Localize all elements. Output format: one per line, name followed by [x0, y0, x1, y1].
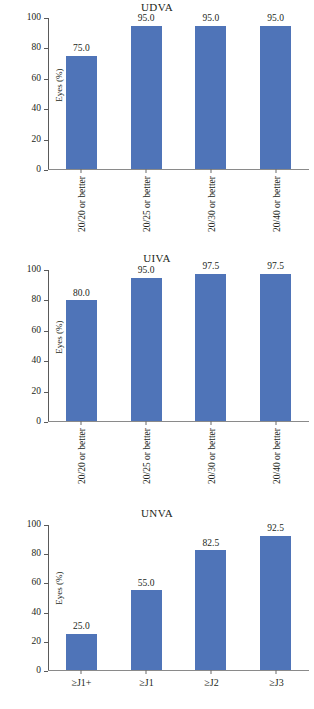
y-tick-100: [44, 18, 48, 19]
x-category-label: ≥J1: [139, 677, 153, 688]
x-category-label: 20/20 or better: [77, 428, 87, 484]
bar-group-uiva: 80.0 95.0 97.5: [49, 270, 308, 421]
bar-slot: 95.0: [243, 18, 308, 169]
x-tick: [275, 169, 276, 173]
x-tick: [81, 169, 82, 173]
x-category-label: 20/30 or better: [207, 176, 217, 232]
y-tick-label: 40: [32, 104, 42, 114]
x-axis-line-unva: [48, 670, 309, 671]
bar-value-label: 82.5: [203, 539, 220, 549]
chart-title-unva: UNVA: [0, 507, 314, 519]
bar[interactable]: 95.0: [131, 278, 162, 421]
y-tick-label: 40: [32, 356, 42, 366]
y-tick-label: 60: [32, 579, 42, 589]
x-axis-line-uiva: [48, 421, 309, 422]
bar[interactable]: 92.5: [260, 536, 291, 670]
bar-slot: 95.0: [114, 18, 179, 169]
y-tick-100: [44, 270, 48, 271]
y-tick-60: [44, 79, 48, 80]
bar-slot: 75.0: [49, 18, 114, 169]
x-tick: [275, 421, 276, 425]
bar-value-label: 95.0: [267, 14, 284, 24]
bar-value-label: 97.5: [267, 262, 284, 272]
y-tick-label: 0: [36, 417, 41, 427]
bar-value-label: 95.0: [138, 266, 155, 276]
y-tick-0: [44, 422, 48, 423]
bar-slot: 92.5: [243, 525, 308, 670]
y-tick-label: 0: [36, 165, 41, 175]
x-category-label: 20/40 or better: [272, 176, 282, 232]
bar[interactable]: 25.0: [66, 634, 97, 670]
bar[interactable]: 55.0: [131, 590, 162, 670]
bar[interactable]: 75.0: [66, 56, 97, 169]
bar[interactable]: 97.5: [260, 274, 291, 421]
y-tick-60: [44, 331, 48, 332]
y-tick-80: [44, 554, 48, 555]
y-tick-label: 100: [27, 13, 41, 23]
figure-three-bar-charts: UDVA Eyes (%) 100 80 60 40 20 0 75.0: [0, 0, 314, 709]
x-category-label: ≥J2: [204, 677, 218, 688]
x-tick: [210, 670, 211, 674]
bar-slot: 97.5: [179, 270, 244, 421]
x-category-label: 20/25 or better: [142, 176, 152, 232]
chart-panel-udva: UDVA Eyes (%) 100 80 60 40 20 0 75.0: [0, 0, 314, 248]
y-tick-40: [44, 361, 48, 362]
bar[interactable]: 95.0: [131, 26, 162, 169]
chart-panel-unva: UNVA Eyes (%) 100 80 60 40 20 0 25.0: [0, 503, 314, 709]
bar-value-label: 97.5: [203, 262, 220, 272]
bar-slot: 55.0: [114, 525, 179, 670]
y-tick-label: 60: [32, 74, 42, 84]
y-tick-label: 0: [36, 666, 41, 676]
y-tick-0: [44, 671, 48, 672]
y-tick-label: 60: [32, 326, 42, 336]
plot-area-udva: Eyes (%) 100 80 60 40 20 0 75.0: [48, 18, 308, 170]
bar-slot: 25.0: [49, 525, 114, 670]
bar-slot: 82.5: [179, 525, 244, 670]
bar-slot: 95.0: [179, 18, 244, 169]
y-tick-label: 80: [32, 296, 42, 306]
x-tick: [210, 169, 211, 173]
y-tick-0: [44, 170, 48, 171]
y-tick-label: 20: [32, 637, 42, 647]
x-category-label: 20/30 or better: [207, 428, 217, 484]
x-category-label: 20/20 or better: [77, 176, 87, 232]
bar[interactable]: 95.0: [195, 26, 226, 169]
bar[interactable]: 82.5: [195, 550, 226, 670]
bar-value-label: 25.0: [73, 622, 90, 632]
y-tick-label: 20: [32, 387, 42, 397]
bar-value-label: 75.0: [73, 44, 90, 54]
bar-value-label: 95.0: [203, 14, 220, 24]
bar[interactable]: 95.0: [260, 26, 291, 169]
y-tick-label: 80: [32, 549, 42, 559]
x-tick: [210, 421, 211, 425]
y-tick-80: [44, 48, 48, 49]
bar[interactable]: 97.5: [195, 274, 226, 421]
y-tick-20: [44, 392, 48, 393]
x-category-label: 20/25 or better: [142, 428, 152, 484]
y-tick-label: 100: [27, 265, 41, 275]
x-tick: [81, 421, 82, 425]
bar-group-udva: 75.0 95.0 95.0: [49, 18, 308, 169]
x-tick: [81, 670, 82, 674]
bar[interactable]: 80.0: [66, 300, 97, 421]
bar-group-unva: 25.0 55.0 82.5: [49, 525, 308, 670]
plot-area-uiva: Eyes (%) 100 80 60 40 20 0 80.0: [48, 270, 308, 422]
plot-area-unva: Eyes (%) 100 80 60 40 20 0 25.0: [48, 525, 308, 671]
bar-slot: 97.5: [243, 270, 308, 421]
bar-value-label: 80.0: [73, 289, 90, 299]
bar-slot: 95.0: [114, 270, 179, 421]
bar-slot: 80.0: [49, 270, 114, 421]
y-tick-100: [44, 525, 48, 526]
y-tick-60: [44, 583, 48, 584]
y-tick-label: 20: [32, 135, 42, 145]
y-tick-label: 40: [32, 608, 42, 618]
y-tick-label: 80: [32, 44, 42, 54]
x-category-label: ≥J1+: [71, 677, 91, 688]
y-tick-40: [44, 613, 48, 614]
y-tick-40: [44, 109, 48, 110]
x-tick: [146, 421, 147, 425]
bar-value-label: 92.5: [267, 524, 284, 534]
bar-value-label: 55.0: [138, 579, 155, 589]
x-tick: [146, 670, 147, 674]
chart-panel-uiva: UIVA Eyes (%) 100 80 60 40 20 0 80.0: [0, 248, 314, 503]
